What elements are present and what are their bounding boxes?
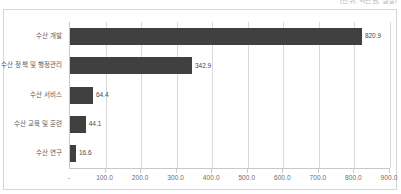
bar[interactable]: [70, 87, 93, 104]
bar-row[interactable]: 16.6: [70, 145, 389, 162]
bar-value-label: 820.9: [365, 33, 381, 40]
x-axis-tick: [353, 168, 354, 173]
bar-value-label: 342.9: [195, 63, 211, 70]
bar-value-label: 64.4: [96, 92, 109, 99]
x-axis-tick-labels: -100.0200.0300.0400.0500.0600.0700.0800.…: [69, 175, 389, 187]
x-axis-tick-label: 900.0: [381, 175, 398, 182]
x-axis-tick: [282, 168, 283, 173]
x-axis-tick-label: 700.0: [309, 175, 326, 182]
x-axis-tick-label: 800.0: [345, 175, 362, 182]
x-axis-tick-label: -: [68, 175, 70, 182]
bar[interactable]: [70, 57, 192, 74]
x-axis-tick-label: 200.0: [132, 175, 149, 182]
x-axis-tick-label: 600.0: [274, 175, 291, 182]
category-axis-labels: 수산 개발수산 정책 및 행정관리수산 서비스수산 교육 및 훈련수산 연구: [4, 22, 66, 168]
bar-value-label: 44.1: [89, 121, 102, 128]
category-label: 수산 서비스: [30, 92, 62, 99]
chart-screenshot: (단위: 백만원, 실질) 수산 개발수산 정책 및 행정관리수산 서비스수산 …: [0, 0, 401, 194]
x-axis-tick-label: 400.0: [203, 175, 220, 182]
x-axis-tick: [318, 168, 319, 173]
x-axis-tick-label: 300.0: [167, 175, 184, 182]
bar-row[interactable]: 64.4: [70, 87, 389, 104]
x-axis-tick: [105, 168, 106, 173]
category-label: 수산 정책 및 행정관리: [1, 62, 62, 69]
bar-value-label: 16.6: [79, 150, 92, 157]
bar[interactable]: [70, 145, 76, 162]
bar-row[interactable]: 342.9: [70, 57, 389, 74]
bar[interactable]: [70, 28, 362, 45]
bar-series: 820.9342.964.444.116.6: [70, 22, 389, 168]
bar[interactable]: [70, 116, 86, 133]
bar-row[interactable]: 820.9: [70, 28, 389, 45]
bar-row[interactable]: 44.1: [70, 116, 389, 133]
x-axis-tick: [247, 168, 248, 173]
chart-unit-caption: (단위: 백만원, 실질): [340, 0, 397, 4]
x-axis-ticks: [69, 168, 389, 174]
gridline: [390, 22, 391, 168]
category-label: 수산 연구: [36, 150, 62, 157]
x-axis-tick: [211, 168, 212, 173]
x-axis-tick: [140, 168, 141, 173]
x-axis-tick-label: 500.0: [238, 175, 255, 182]
chart-frame: 수산 개발수산 정책 및 행정관리수산 서비스수산 교육 및 훈련수산 연구 8…: [3, 9, 397, 190]
x-axis-tick: [389, 168, 390, 173]
x-axis-tick: [176, 168, 177, 173]
category-label: 수산 개발: [36, 33, 62, 40]
x-axis-tick-label: 100.0: [96, 175, 113, 182]
plot-area: 820.9342.964.444.116.6: [69, 22, 389, 168]
category-label: 수산 교육 및 훈련: [14, 121, 62, 128]
